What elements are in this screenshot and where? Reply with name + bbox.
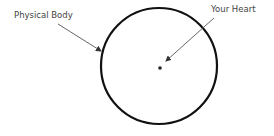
- physical-body-circle: [101, 8, 217, 124]
- physical-body-arrow: [58, 24, 101, 51]
- physical-body-label: Physical Body: [14, 11, 73, 20]
- diagram-canvas: Physical Body Your Heart: [0, 0, 274, 136]
- your-heart-arrow: [166, 18, 214, 61]
- heart-dot: [158, 66, 162, 70]
- your-heart-label: Your Heart: [211, 5, 256, 14]
- diagram-svg: [0, 0, 274, 136]
